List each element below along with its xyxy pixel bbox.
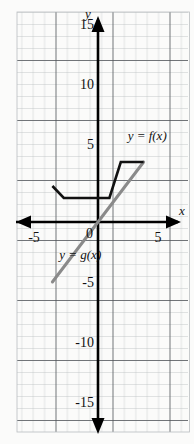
y-tick-neg15: -15 (75, 395, 94, 410)
series-f-label: y = f(x) (126, 128, 167, 143)
y-tick-neg5: -5 (82, 275, 94, 290)
y-tick-5: 5 (87, 137, 94, 152)
graph-figure: 15 10 5 -5 -10 -15 -5 5 0 y x y = f(x) y… (0, 0, 194, 444)
coordinate-plane: 15 10 5 -5 -10 -15 -5 5 0 y x y = f(x) y… (0, 0, 194, 444)
y-axis-label: y (83, 6, 91, 21)
x-tick-neg5: -5 (28, 230, 40, 245)
y-tick-10: 10 (80, 77, 94, 92)
x-axis-label: x (178, 203, 185, 218)
x-tick-5: 5 (155, 230, 162, 245)
series-g-label: y = g(x) (57, 247, 101, 262)
y-tick-neg10: -10 (75, 335, 94, 350)
origin-label: 0 (86, 226, 93, 241)
